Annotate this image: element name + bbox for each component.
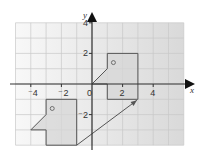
x-tick-label: 0	[87, 88, 92, 98]
x-axis-label: x	[189, 85, 194, 95]
y-axis-arrow-icon	[87, 12, 97, 22]
x-tick-label: ⁻4	[28, 88, 38, 98]
x-tick-label: ⁻2	[58, 88, 68, 98]
x-tick-label: 2	[120, 88, 125, 98]
coordinate-diagram: ⁻4⁻202442⁻2xy	[0, 0, 206, 159]
y-tick-label: 2	[83, 48, 88, 58]
y-axis-label: y	[82, 10, 87, 20]
x-tick-label: 4	[150, 88, 155, 98]
y-tick-label: ⁻2	[78, 110, 88, 120]
